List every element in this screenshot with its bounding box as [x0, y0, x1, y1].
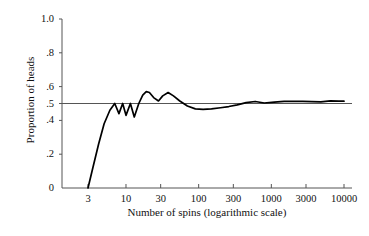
- x-tick-marks: [88, 184, 344, 188]
- chart-screenshot: Proportion of heads Number of spins (log…: [0, 0, 369, 236]
- plot-area: [0, 0, 369, 236]
- data-series-line: [88, 92, 344, 188]
